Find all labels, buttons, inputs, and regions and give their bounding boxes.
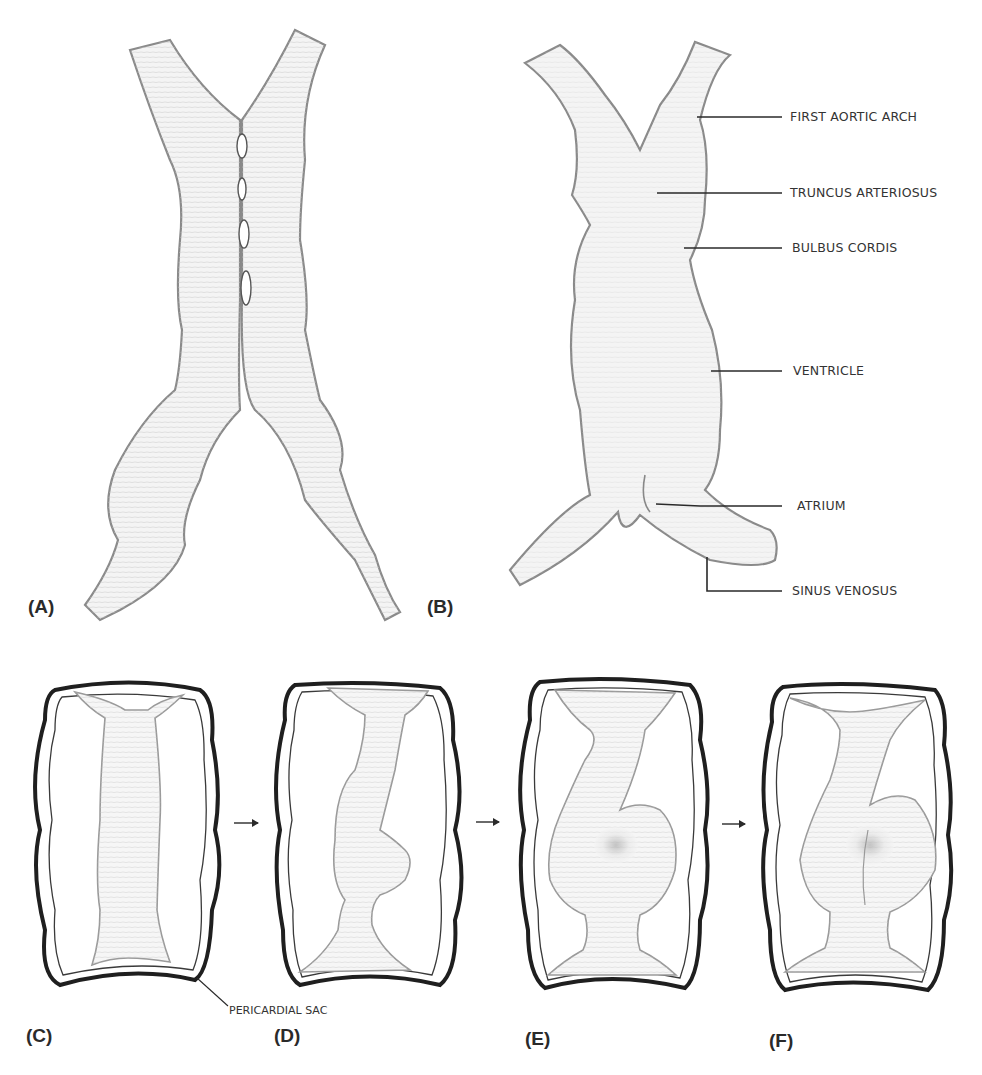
label-first-aortic-arch: FIRST AORTIC ARCH	[790, 109, 917, 124]
fusion-slit	[239, 220, 249, 248]
label-truncus-arteriosus: TRUNCUS ARTERIOSUS	[790, 185, 937, 200]
panel-label-c: (C)	[26, 1025, 52, 1047]
label-ventricle: VENTRICLE	[793, 363, 864, 378]
panel-c-drawing	[35, 683, 219, 986]
fusion-slit	[238, 178, 246, 200]
panel-label-e: (E)	[525, 1028, 550, 1050]
panel-label-b: (B)	[427, 596, 453, 618]
label-atrium: ATRIUM	[797, 498, 846, 513]
fusion-slit	[241, 271, 251, 305]
pericardial-sac-leader	[197, 978, 228, 1006]
panel-d-drawing	[276, 683, 462, 985]
label-bulbus-cordis: BULBUS CORDIS	[792, 240, 897, 255]
fusion-slit	[237, 134, 247, 158]
panel-label-a: (A)	[28, 596, 54, 618]
panel-a-drawing	[85, 30, 400, 620]
arrow-d-to-e	[476, 818, 500, 826]
label-pericardial-sac: PERICARDIAL SAC	[229, 1004, 327, 1017]
label-sinus-venosus: SINUS VENOSUS	[792, 583, 897, 598]
panel-f-drawing	[763, 684, 951, 990]
panel-e-drawing	[520, 679, 707, 988]
arrow-e-to-f	[722, 820, 746, 828]
panel-b-drawing	[510, 42, 777, 585]
arrow-c-to-d	[234, 819, 259, 827]
loop-shading	[594, 827, 638, 863]
panel-label-f: (F)	[769, 1030, 793, 1052]
figure-canvas	[0, 0, 982, 1075]
panel-label-d: (D)	[274, 1025, 300, 1047]
loop-shading	[846, 825, 894, 865]
